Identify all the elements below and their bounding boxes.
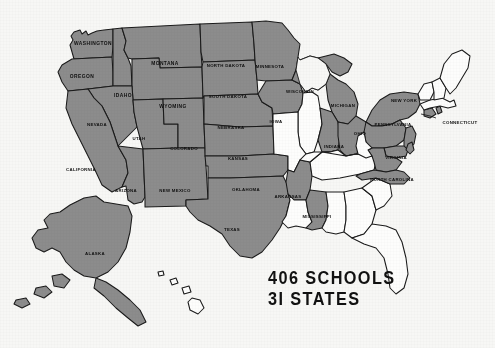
label-utah: UTAH (133, 136, 146, 141)
caption-schools-line: 406 SCHOOLS (268, 268, 396, 289)
us-map-svg: WASHINGTON OREGON IDAHO MONTANA WYOMING … (0, 0, 495, 348)
label-iowa: IOWA (270, 119, 283, 124)
state-alaska (14, 196, 146, 326)
label-minnesota: MINNESOTA (256, 64, 285, 69)
label-northcarolina: NORTH CAROLINA (370, 177, 414, 182)
state-hawaii (158, 271, 204, 314)
label-nevada: NEVADA (87, 122, 107, 127)
label-northdakota: NORTH DAKOTA (207, 63, 246, 68)
label-idaho: IDAHO (114, 93, 132, 98)
label-indiana: INDIANA (324, 144, 345, 149)
label-oklahoma: OKLAHOMA (232, 187, 261, 192)
state-rhodeisland (436, 106, 442, 114)
label-california: CALIFORNIA (66, 167, 96, 172)
caption-states-line: 3I STATES (268, 289, 396, 310)
label-nebraska: NEBRASKA (217, 125, 245, 130)
label-wyoming: WYOMING (159, 104, 186, 109)
state-newmexico (143, 148, 208, 207)
state-minnesota (252, 21, 300, 81)
label-newyork: NEW YORK (391, 98, 418, 103)
label-arkansas: ARKANSAS (274, 194, 301, 199)
label-oregon: OREGON (70, 74, 94, 79)
label-texas: TEXAS (224, 227, 240, 232)
label-mississippi: MISSISSIPPI (302, 214, 331, 219)
label-washington: WASHINGTON (74, 41, 112, 46)
label-arizona: ARIZONA (115, 188, 137, 193)
label-ohio: OHIO (354, 131, 367, 136)
us-map: WASHINGTON OREGON IDAHO MONTANA WYOMING … (0, 0, 495, 348)
label-connecticut: CONNECTICUT (443, 120, 478, 125)
state-northdakota (200, 22, 255, 62)
label-pennsylvania: PENNSYLVANIA (375, 122, 413, 127)
label-kansas: KANSAS (228, 156, 248, 161)
label-southdakota: SOUTH DAKOTA (209, 94, 248, 99)
label-alaska: ALASKA (85, 251, 105, 256)
label-montana: MONTANA (151, 61, 179, 66)
label-colorado: COLORADO (170, 146, 198, 151)
label-newmexico: NEW MEXICO (159, 188, 191, 193)
label-virginia: VIRGINIA (385, 155, 407, 160)
label-michigan: MICHIGAN (331, 103, 355, 108)
map-caption: 406 SCHOOLS 3I STATES (268, 268, 396, 310)
label-wisconsin: WISCONSIN (286, 89, 314, 94)
state-vermont (418, 82, 434, 100)
